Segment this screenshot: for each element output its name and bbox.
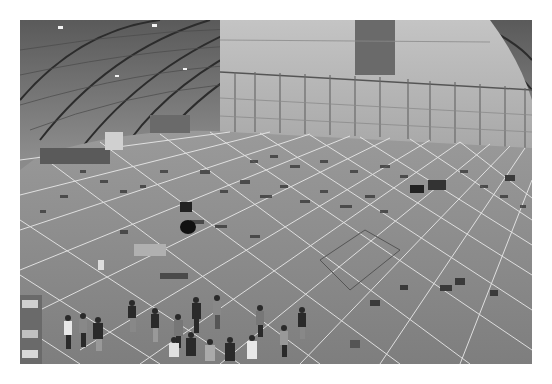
back-wall	[220, 20, 532, 150]
left-equipment	[20, 295, 42, 364]
hangar-photo	[20, 20, 532, 364]
